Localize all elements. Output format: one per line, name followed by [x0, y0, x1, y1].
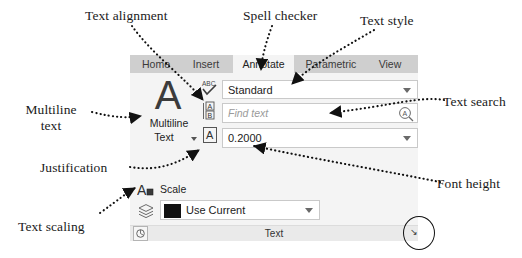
callout-justification-label: Justification	[40, 160, 107, 175]
multiline-text-label-line2: Text	[140, 131, 188, 143]
ribbon-tab-insert[interactable]: Insert	[185, 55, 227, 73]
ribbon-tab-home-label: Home	[142, 58, 170, 70]
callout-text-alignment-label: Text alignment	[85, 8, 168, 23]
callout-multiline-text: Multiline text	[12, 102, 90, 135]
chevron-down-icon[interactable]	[191, 137, 197, 141]
chevron-down-icon[interactable]	[403, 136, 411, 141]
svg-text:A: A	[207, 103, 212, 110]
svg-text:A: A	[137, 182, 147, 198]
callout-text-search: Text search	[443, 94, 506, 110]
chevron-down-icon[interactable]	[403, 88, 411, 93]
ribbon-tab-annotate-label: Annotate	[242, 58, 284, 70]
find-text-field[interactable]: Find text A	[222, 103, 418, 123]
font-height-value: 0.2000	[223, 132, 262, 144]
text-panel-name: Text	[130, 226, 418, 241]
callout-text-style: Text style	[360, 13, 414, 29]
annotation-scale-icon[interactable]	[133, 226, 148, 241]
screenshot-root: Home Insert Annotate Parametric View A M…	[0, 0, 522, 258]
callout-text-alignment: Text alignment	[85, 8, 168, 24]
text-panel-footer: Text	[130, 225, 418, 241]
callout-text-scaling-label: Text scaling	[18, 219, 85, 234]
spell-check-icon[interactable]: ABC	[200, 78, 220, 99]
text-scale-row[interactable]: A Scale	[136, 182, 256, 198]
multiline-text-label-line1: Multiline	[140, 117, 198, 129]
text-layer-combo[interactable]: Use Current	[160, 200, 320, 220]
ribbon-tab-home[interactable]: Home	[135, 55, 177, 73]
text-search-icon[interactable]: A	[398, 106, 414, 126]
callout-multiline-text-label-line2: text	[41, 118, 62, 133]
callout-justification: Justification	[40, 160, 107, 176]
text-style-value: Standard	[223, 84, 273, 96]
text-alignment-icon[interactable]: A B	[200, 100, 220, 121]
svg-text:ABC: ABC	[202, 80, 216, 87]
find-text-placeholder: Find text	[223, 107, 268, 119]
callout-text-scaling: Text scaling	[18, 219, 85, 235]
justification-icon[interactable]: A	[200, 124, 220, 145]
callout-spell-checker-label: Spell checker	[243, 8, 317, 23]
callout-spell-checker: Spell checker	[243, 8, 317, 24]
ribbon-tab-view-label: View	[379, 58, 402, 70]
ribbon-tab-parametric[interactable]: Parametric	[298, 55, 364, 73]
chevron-down-icon[interactable]	[305, 208, 313, 213]
svg-text:A: A	[206, 129, 214, 141]
dialog-launcher-highlight-circle	[403, 216, 435, 250]
svg-text:A: A	[402, 110, 407, 117]
ribbon-tab-annotate[interactable]: Annotate	[233, 55, 294, 73]
callout-font-height-label: Font height	[437, 176, 500, 191]
callout-font-height: Font height	[437, 176, 500, 192]
ribbon-tab-parametric-label: Parametric	[306, 58, 357, 70]
multiline-text-button[interactable]: A	[146, 76, 190, 114]
callout-text-search-label: Text search	[443, 94, 506, 109]
ribbon-tab-insert-label: Insert	[193, 58, 219, 70]
callout-text-style-label: Text style	[360, 13, 414, 28]
callout-multiline-text-label-line1: Multiline	[25, 102, 76, 117]
multiline-text-glyph: A	[155, 75, 182, 115]
color-swatch	[164, 204, 181, 218]
text-scale-icon[interactable]: A	[136, 182, 156, 198]
text-tools-icon-column: ABC A B A	[200, 78, 220, 148]
layers-icon[interactable]	[136, 202, 156, 219]
text-scale-label: Scale	[160, 183, 186, 195]
svg-text:B: B	[207, 112, 212, 119]
font-height-combo[interactable]: 0.2000	[222, 128, 418, 148]
ribbon-tab-view[interactable]: View	[370, 55, 410, 73]
text-style-combo[interactable]: Standard	[222, 80, 418, 99]
